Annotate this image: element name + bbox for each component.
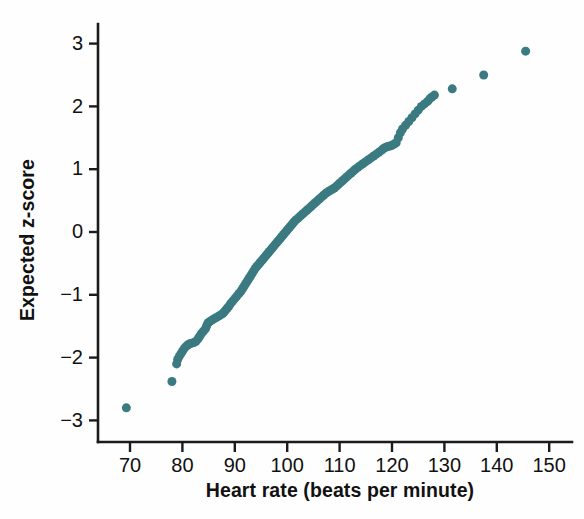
y-tick-label: 0 [72,220,83,242]
y-tick-label: 2 [72,95,83,117]
quantile-plot-figure: −3−2−10123 708090100110120130140150 Hear… [0,0,584,519]
y-tick-label: −2 [60,346,83,368]
y-tick-label: 1 [72,157,83,179]
x-tick-label: 150 [533,454,566,476]
data-point [430,91,439,100]
data-point [167,377,176,386]
x-tick-label: 110 [324,454,356,476]
y-tick-label: −3 [60,409,83,431]
y-tick-label: −1 [60,283,83,305]
x-tick-label: 120 [375,454,408,476]
data-point [122,403,131,412]
x-tick-label: 100 [271,454,304,476]
x-tick-label: 80 [171,454,193,476]
data-points-group [122,47,530,413]
data-point [448,84,457,93]
y-tick-label: 3 [72,32,83,54]
x-axis-ticks: 708090100110120130140150 [119,442,566,476]
data-point [521,47,530,56]
y-axis-title: Expected z-score [16,159,38,321]
x-axis-title: Heart rate (beats per minute) [206,479,474,501]
x-tick-label: 130 [428,454,461,476]
x-tick-label: 90 [224,454,246,476]
scatter-plot-canvas: −3−2−10123 708090100110120130140150 Hear… [0,0,584,519]
x-tick-label: 70 [119,454,141,476]
x-tick-label: 140 [480,454,513,476]
y-axis-ticks: −3−2−10123 [60,32,98,431]
data-point [479,71,488,80]
